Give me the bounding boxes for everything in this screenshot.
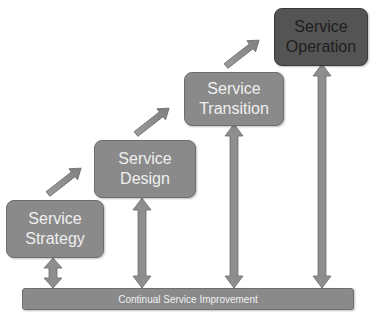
double-arrow-icon (44, 258, 62, 288)
step-arrow-icon (44, 163, 86, 200)
stage-label: Service (118, 149, 171, 169)
stage-label: Transition (199, 99, 269, 119)
double-arrow-icon (225, 124, 243, 288)
step-arrow-icon (222, 35, 264, 72)
stage-service-operation: Service Operation (274, 8, 368, 66)
stage-label: Service (207, 79, 260, 99)
step-arrow-icon (132, 103, 174, 140)
double-arrow-icon (133, 198, 151, 288)
stage-label: Design (120, 169, 170, 189)
stage-label: Operation (286, 37, 356, 57)
stage-service-design: Service Design (94, 140, 196, 198)
bar-label: Continual Service Improvement (118, 294, 258, 305)
stage-label: Strategy (25, 229, 85, 249)
stage-label: Service (294, 17, 347, 37)
stage-service-strategy: Service Strategy (6, 200, 104, 258)
stage-label: Service (28, 209, 81, 229)
stage-service-transition: Service Transition (184, 72, 284, 126)
double-arrow-icon (313, 64, 331, 288)
continual-service-improvement-bar: Continual Service Improvement (22, 288, 354, 310)
